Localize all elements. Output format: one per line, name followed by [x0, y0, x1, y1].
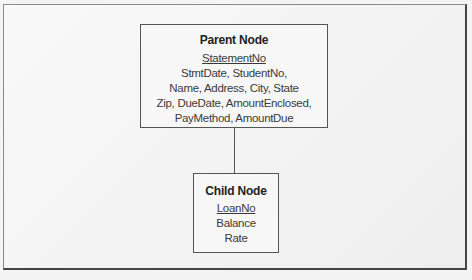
parent-child-connector	[234, 128, 235, 173]
parent-key-field: StatementNo	[141, 51, 327, 66]
parent-attribute-line: Zip, DueDate, AmountEnclosed,	[141, 96, 327, 111]
parent-attribute-line: StmtDate, StudentNo,	[141, 66, 327, 81]
parent-node: Parent Node StatementNo StmtDate, Studen…	[140, 24, 328, 128]
child-attribute-line: Rate	[194, 231, 278, 246]
child-attribute-line: Balance	[194, 216, 278, 231]
parent-attribute-line: Name, Address, City, State	[141, 81, 327, 96]
child-node: Child Node LoanNo Balance Rate	[193, 173, 279, 253]
parent-node-title: Parent Node	[141, 33, 327, 47]
parent-attribute-line: PayMethod, AmountDue	[141, 111, 327, 126]
child-node-title: Child Node	[194, 184, 278, 198]
child-key-field: LoanNo	[194, 201, 278, 216]
